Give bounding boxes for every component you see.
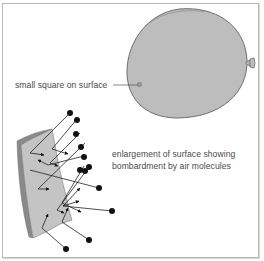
molecule bbox=[74, 117, 80, 123]
balloon bbox=[113, 9, 255, 118]
small-square-label: small square on surface bbox=[15, 79, 107, 91]
molecule bbox=[96, 185, 102, 191]
molecule bbox=[78, 144, 84, 150]
diagram-canvas bbox=[0, 0, 264, 261]
molecule bbox=[81, 154, 87, 160]
balloon-body bbox=[127, 9, 247, 118]
molecule bbox=[73, 131, 79, 137]
molecule bbox=[86, 237, 92, 243]
enlargement-caption: enlargement of surface showing bombardme… bbox=[112, 148, 235, 172]
molecule bbox=[77, 167, 83, 173]
molecule bbox=[109, 208, 115, 214]
molecule bbox=[86, 164, 92, 170]
enlargement-caption-line2: bombardment by air molecules bbox=[112, 160, 235, 172]
enlargement-caption-line1: enlargement of surface showing bbox=[112, 148, 235, 160]
molecule bbox=[67, 110, 73, 116]
molecule bbox=[63, 246, 69, 252]
